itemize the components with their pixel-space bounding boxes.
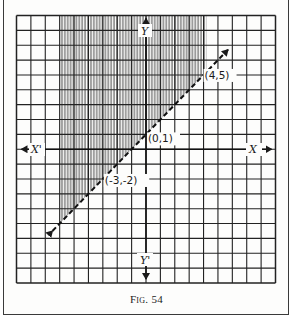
y-neg-axis-label: Y' — [140, 254, 150, 267]
x-neg-axis-label: X' — [30, 143, 42, 156]
axes — [22, 19, 272, 280]
point-label: (0,1) — [148, 132, 173, 144]
point-label: (-3,-2) — [105, 174, 137, 186]
figure-caption: Fig. 54 — [0, 293, 293, 305]
point-label: (4,5) — [205, 69, 230, 81]
coordinate-plot: (4,5)(0,1)(-3,-2) Y X X' Y' — [0, 0, 293, 324]
x-axis-label: X — [248, 143, 258, 156]
